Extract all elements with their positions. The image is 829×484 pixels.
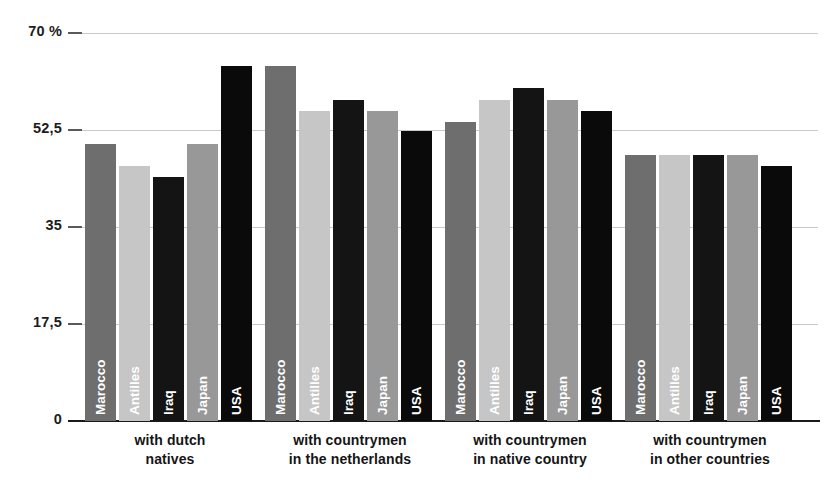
category-label-line2: in other countries bbox=[625, 450, 795, 469]
bar[interactable]: Antilles bbox=[479, 100, 510, 421]
bar-series-label: Marocco bbox=[265, 386, 296, 417]
bar[interactable]: Japan bbox=[727, 155, 758, 421]
bar[interactable]: Antilles bbox=[659, 155, 690, 421]
category-label-line1: with countrymen bbox=[293, 432, 407, 448]
bar-group: MaroccoAntillesIraqJapanUSA bbox=[85, 31, 255, 421]
bar-series-label-text: Iraq bbox=[333, 386, 364, 417]
category-label-line2: in the netherlands bbox=[265, 450, 435, 469]
bar-series-label: Iraq bbox=[153, 386, 184, 417]
bar-series-label: USA bbox=[221, 386, 252, 417]
x-axis-category-label: with dutchnatives bbox=[85, 431, 255, 469]
bar-series-label: Marocco bbox=[445, 386, 476, 417]
bar-series-label-text: USA bbox=[761, 386, 792, 417]
bar[interactable]: Iraq bbox=[693, 155, 724, 421]
y-axis-tick-label: 70 % bbox=[0, 23, 62, 39]
bar-series-label: Antilles bbox=[659, 386, 690, 417]
bar-series-label: Iraq bbox=[693, 386, 724, 417]
bar-series-label: USA bbox=[761, 386, 792, 417]
bar-series-label: Iraq bbox=[333, 386, 364, 417]
bar-series-label-text: Japan bbox=[187, 386, 218, 417]
bar[interactable]: Japan bbox=[367, 111, 398, 421]
bar[interactable]: Iraq bbox=[333, 100, 364, 421]
bar-series-label-text: Marocco bbox=[445, 386, 476, 417]
bar[interactable]: USA bbox=[401, 131, 432, 421]
bar-series-label-text: Marocco bbox=[625, 386, 656, 417]
bar[interactable]: USA bbox=[761, 166, 792, 421]
y-axis-tick-label: 17,5 bbox=[0, 314, 62, 330]
bar-series-label-text: Japan bbox=[727, 386, 758, 417]
y-axis-tick bbox=[68, 129, 82, 131]
bar-series-label-text: Iraq bbox=[693, 386, 724, 417]
bar-group: MaroccoAntillesIraqJapanUSA bbox=[625, 31, 795, 421]
x-axis-category-label: with countrymenin other countries bbox=[625, 431, 795, 469]
bar-series-label-text: Marocco bbox=[85, 386, 116, 417]
bar-series-label: Marocco bbox=[625, 386, 656, 417]
bar[interactable]: Marocco bbox=[625, 155, 656, 421]
y-axis-tick bbox=[68, 226, 82, 228]
bar-series-label-text: Antilles bbox=[119, 386, 150, 417]
bar[interactable]: Japan bbox=[187, 144, 218, 421]
bar-series-label: USA bbox=[401, 386, 432, 417]
bar[interactable]: Japan bbox=[547, 100, 578, 421]
y-axis-tick-label: 35 bbox=[0, 217, 62, 233]
bar[interactable]: Marocco bbox=[445, 122, 476, 421]
x-axis-category-label: with countrymenin the netherlands bbox=[265, 431, 435, 469]
bar-series-label-text: Antilles bbox=[479, 386, 510, 417]
bar-chart: 70 %52,53517,50MaroccoAntillesIraqJapanU… bbox=[0, 0, 829, 484]
bar-series-label-text: Marocco bbox=[265, 386, 296, 417]
bar-series-label: USA bbox=[581, 386, 612, 417]
bar-series-label: Iraq bbox=[513, 386, 544, 417]
plot-area: 70 %52,53517,50MaroccoAntillesIraqJapanU… bbox=[0, 0, 829, 484]
bar-series-label-text: Japan bbox=[367, 386, 398, 417]
bar-series-label-text: Japan bbox=[547, 386, 578, 417]
category-label-line2: in native country bbox=[445, 450, 615, 469]
category-label-line1: with dutch bbox=[135, 432, 206, 448]
x-axis-category-label: with countrymenin native country bbox=[445, 431, 615, 469]
bar-series-label-text: Antilles bbox=[659, 386, 690, 417]
bar-series-label-text: USA bbox=[221, 386, 252, 417]
bar[interactable]: Marocco bbox=[85, 144, 116, 421]
bar-series-label: Antilles bbox=[479, 386, 510, 417]
bar-group: MaroccoAntillesIraqJapanUSA bbox=[445, 31, 615, 421]
bar[interactable]: Antilles bbox=[299, 111, 330, 421]
bar-series-label: Marocco bbox=[85, 386, 116, 417]
bar[interactable]: Marocco bbox=[265, 66, 296, 421]
category-label-line1: with countrymen bbox=[653, 432, 767, 448]
bar-series-label: Japan bbox=[187, 386, 218, 417]
bar[interactable]: USA bbox=[581, 111, 612, 421]
bar-series-label: Japan bbox=[727, 386, 758, 417]
y-axis-tick-label: 52,5 bbox=[0, 120, 62, 136]
bar[interactable]: Antilles bbox=[119, 166, 150, 421]
bar-series-label-text: Iraq bbox=[513, 386, 544, 417]
bar[interactable]: Iraq bbox=[153, 177, 184, 421]
y-axis-tick bbox=[68, 32, 82, 34]
category-label-line2: natives bbox=[85, 450, 255, 469]
bar-group: MaroccoAntillesIraqJapanUSA bbox=[265, 31, 435, 421]
bar-series-label-text: Antilles bbox=[299, 386, 330, 417]
bar-series-label-text: USA bbox=[401, 386, 432, 417]
category-label-line1: with countrymen bbox=[473, 432, 587, 448]
bar-series-label-text: Iraq bbox=[153, 386, 184, 417]
bar-series-label: Antilles bbox=[299, 386, 330, 417]
bar[interactable]: USA bbox=[221, 66, 252, 421]
bar-series-label-text: USA bbox=[581, 386, 612, 417]
bar-series-label: Japan bbox=[547, 386, 578, 417]
bar-series-label: Antilles bbox=[119, 386, 150, 417]
y-axis-tick bbox=[68, 323, 82, 325]
bar[interactable]: Iraq bbox=[513, 88, 544, 421]
bar-series-label: Japan bbox=[367, 386, 398, 417]
y-axis-tick-label: 0 bbox=[0, 411, 62, 427]
